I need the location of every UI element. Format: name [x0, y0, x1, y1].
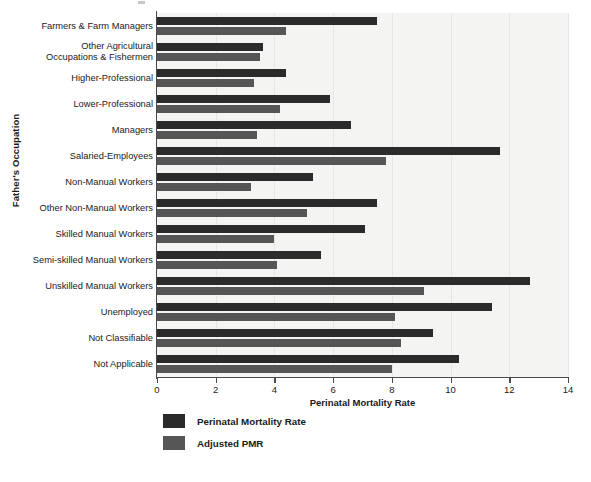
- y-axis-category-label: Unemployed: [3, 307, 153, 318]
- y-axis-category-label: Salaried-Employees: [3, 151, 153, 162]
- y-axis-category-label: Other Non-Manual Workers: [3, 203, 153, 214]
- y-axis-category-label-line: Unemployed: [3, 307, 153, 318]
- y-axis-category-label-line: Farmers & Farm Managers: [3, 21, 153, 32]
- legend-item: Perinatal Mortality Rate: [163, 410, 306, 432]
- y-axis-category-label: Higher-Professional: [3, 73, 153, 84]
- bar-perinatal-mortality-rate: [157, 147, 500, 156]
- x-axis-line: [156, 377, 569, 378]
- legend-swatch-pmr: [163, 414, 185, 428]
- bar-perinatal-mortality-rate: [157, 355, 459, 364]
- y-axis-category-label-line: Managers: [3, 125, 153, 136]
- y-axis-category-label-line: Salaried-Employees: [3, 151, 153, 162]
- chart-legend: Perinatal Mortality RateAdjusted PMR: [163, 410, 306, 454]
- gridline: [509, 13, 510, 377]
- y-axis-category-label: Managers: [3, 125, 153, 136]
- bar-perinatal-mortality-rate: [157, 277, 530, 286]
- x-axis-tick: [568, 378, 569, 383]
- bar-perinatal-mortality-rate: [157, 121, 351, 130]
- x-axis-tick-label: 6: [318, 384, 348, 395]
- bar-perinatal-mortality-rate: [157, 329, 433, 338]
- y-axis-category-label-line: Other Non-Manual Workers: [3, 203, 153, 214]
- perinatal-mortality-bar-chart: 02468101214 Farmers & Farm ManagersOther…: [0, 0, 591, 482]
- x-axis-tick-label: 8: [377, 384, 407, 395]
- y-axis-category-label: Farmers & Farm Managers: [3, 21, 153, 32]
- y-axis-category-label: Other AgriculturalOccupations & Fisherme…: [3, 41, 153, 63]
- x-axis-tick: [333, 378, 334, 383]
- bar-adjusted-pmr: [157, 53, 260, 62]
- bar-perinatal-mortality-rate: [157, 303, 492, 312]
- y-axis-category-label-line: Semi-skilled Manual Workers: [3, 255, 153, 266]
- x-axis-title: Perinatal Mortality Rate: [157, 397, 568, 408]
- bar-adjusted-pmr: [157, 287, 424, 296]
- bar-adjusted-pmr: [157, 261, 277, 270]
- y-axis-category-label: Non-Manual Workers: [3, 177, 153, 188]
- bar-perinatal-mortality-rate: [157, 199, 377, 208]
- bar-perinatal-mortality-rate: [157, 173, 313, 182]
- x-axis-tick-label: 0: [142, 384, 172, 395]
- bar-adjusted-pmr: [157, 235, 274, 244]
- y-axis-category-label-line: Higher-Professional: [3, 73, 153, 84]
- y-axis-category-label: Lower-Professional: [3, 99, 153, 110]
- plot-area: [157, 13, 568, 377]
- bar-adjusted-pmr: [157, 183, 251, 192]
- gridline: [392, 13, 393, 377]
- bar-perinatal-mortality-rate: [157, 17, 377, 26]
- bar-adjusted-pmr: [157, 365, 392, 374]
- gridline: [274, 13, 275, 377]
- y-axis-category-label-line: Occupations & Fishermen: [3, 52, 153, 63]
- y-axis-category-label-line: Skilled Manual Workers: [3, 229, 153, 240]
- y-axis-title: Father's Occupation: [10, 96, 21, 226]
- y-axis-category-label: Skilled Manual Workers: [3, 229, 153, 240]
- bar-perinatal-mortality-rate: [157, 225, 365, 234]
- y-axis-line: [156, 11, 157, 379]
- x-axis-tick: [509, 378, 510, 383]
- gridline: [333, 13, 334, 377]
- bar-adjusted-pmr: [157, 313, 395, 322]
- bar-adjusted-pmr: [157, 209, 307, 218]
- x-axis-tick: [216, 378, 217, 383]
- legend-item: Adjusted PMR: [163, 432, 306, 454]
- x-axis-tick: [392, 378, 393, 383]
- x-axis-tick-label: 14: [553, 384, 583, 395]
- gridline: [451, 13, 452, 377]
- y-axis-category-labels: Farmers & Farm ManagersOther Agricultura…: [0, 0, 153, 380]
- y-axis-category-label: Not Applicable: [3, 359, 153, 370]
- y-axis-category-label-line: Not Classifiable: [3, 333, 153, 344]
- x-axis-tick: [274, 378, 275, 383]
- bar-adjusted-pmr: [157, 105, 280, 114]
- y-axis-category-label-line: Non-Manual Workers: [3, 177, 153, 188]
- gridline: [216, 13, 217, 377]
- x-axis-tick-label: 4: [259, 384, 289, 395]
- y-axis-category-label-line: Other Agricultural: [3, 41, 153, 52]
- bar-adjusted-pmr: [157, 79, 254, 88]
- y-axis-category-label: Semi-skilled Manual Workers: [3, 255, 153, 266]
- bar-perinatal-mortality-rate: [157, 251, 321, 260]
- bar-adjusted-pmr: [157, 131, 257, 140]
- bar-adjusted-pmr: [157, 157, 386, 166]
- bar-adjusted-pmr: [157, 27, 286, 36]
- y-axis-category-label: Not Classifiable: [3, 333, 153, 344]
- x-axis-tick: [157, 378, 158, 383]
- bar-perinatal-mortality-rate: [157, 43, 263, 52]
- gridline: [568, 13, 569, 377]
- y-axis-category-label-line: Unskilled Manual Workers: [3, 281, 153, 292]
- legend-label: Perinatal Mortality Rate: [197, 416, 306, 427]
- bar-adjusted-pmr: [157, 339, 401, 348]
- y-axis-category-label: Unskilled Manual Workers: [3, 281, 153, 292]
- legend-swatch-adj: [163, 436, 185, 450]
- y-axis-category-label-line: Lower-Professional: [3, 99, 153, 110]
- x-axis-tick-label: 12: [494, 384, 524, 395]
- x-axis-tick-label: 10: [436, 384, 466, 395]
- bar-perinatal-mortality-rate: [157, 69, 286, 78]
- x-axis-tick-label: 2: [201, 384, 231, 395]
- legend-label: Adjusted PMR: [197, 438, 263, 449]
- y-axis-category-label-line: Not Applicable: [3, 359, 153, 370]
- x-axis-tick: [451, 378, 452, 383]
- bar-perinatal-mortality-rate: [157, 95, 330, 104]
